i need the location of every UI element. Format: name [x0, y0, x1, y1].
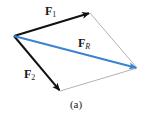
vector-fr-arrow: [14, 36, 136, 68]
vector-f2-arrow: [14, 36, 59, 90]
label-f1: F1: [45, 4, 56, 19]
construction-line-f2-to-fr: [60, 68, 137, 91]
label-f2: F2: [24, 67, 35, 82]
figure-caption: (a): [70, 98, 83, 111]
label-fr: FR: [78, 36, 90, 51]
construction-line-f1-to-fr: [90, 13, 137, 68]
vector-diagram: F1 FR F2 (a): [0, 0, 146, 115]
